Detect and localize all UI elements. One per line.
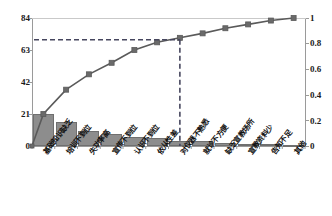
cumulative-marker [223,26,228,31]
cumulative-marker [86,72,91,77]
pareto-chart: 84 63 42 21 0 1 0.8 0.6 0.4 0.2 0 基础知识缺乏… [0,0,332,216]
cumulative-marker [109,60,114,65]
cumulative-marker [64,87,69,92]
cumulative-marker [41,112,46,117]
cumulative-line-overlay [0,0,332,216]
cumulative-marker [30,144,34,148]
cumulative-marker [155,40,160,45]
cumulative-line [32,18,294,146]
cumulative-marker [268,18,273,23]
cumulative-marker [132,48,137,53]
cumulative-marker [200,31,205,36]
cumulative-marker [291,16,296,21]
cumulative-marker [246,22,251,27]
